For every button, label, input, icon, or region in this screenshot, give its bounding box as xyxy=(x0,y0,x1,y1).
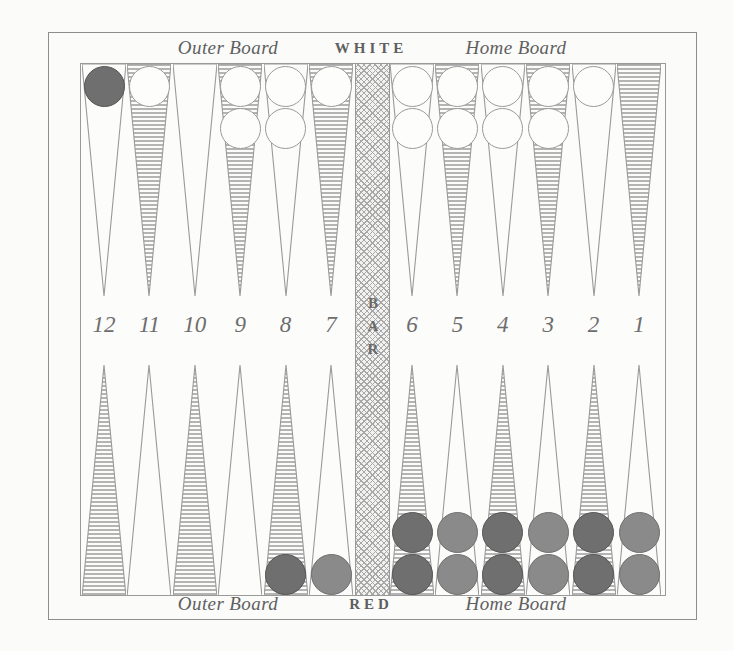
checker-red-bottom-4[interactable] xyxy=(482,512,523,553)
checker-red-bottom-8[interactable] xyxy=(265,554,306,595)
checker-white-top-8[interactable] xyxy=(265,66,306,107)
point-number-10: 10 xyxy=(173,312,217,338)
point-number-2: 2 xyxy=(572,312,616,338)
checker-white-top-5[interactable] xyxy=(437,66,478,107)
checker-white-top-9[interactable] xyxy=(220,108,261,149)
point-top-10[interactable] xyxy=(173,64,217,296)
point-top-1[interactable] xyxy=(617,64,661,296)
checker-white-top-6[interactable] xyxy=(392,108,433,149)
checker-white-top-3[interactable] xyxy=(528,108,569,149)
bottom-outer-board-label: Outer Board xyxy=(153,593,303,615)
checker-white-top-8[interactable] xyxy=(265,108,306,149)
point-bottom-12[interactable] xyxy=(82,365,126,596)
checker-white-top-4[interactable] xyxy=(482,66,523,107)
checker-red-bottom-2[interactable] xyxy=(573,554,614,595)
point-bottom-10[interactable] xyxy=(173,365,217,596)
point-number-12: 12 xyxy=(82,312,126,338)
point-bottom-11[interactable] xyxy=(127,365,171,596)
point-number-4: 4 xyxy=(481,312,525,338)
checker-white-top-5[interactable] xyxy=(437,108,478,149)
top-home-board-label: Home Board xyxy=(441,37,591,59)
checker-red-bottom-1[interactable] xyxy=(619,512,660,553)
point-bottom-9[interactable] xyxy=(218,365,262,596)
bar-region[interactable]: BAR xyxy=(355,64,390,595)
checker-red-bottom-1[interactable] xyxy=(619,554,660,595)
bottom-player-label: RED xyxy=(311,596,431,613)
bottom-home-board-label: Home Board xyxy=(441,593,591,615)
checker-red-bottom-3[interactable] xyxy=(528,554,569,595)
checker-red-bottom-4[interactable] xyxy=(482,554,523,595)
point-number-6: 6 xyxy=(390,312,434,338)
backgammon-board-frame: Outer Board WHITE Home Board Outer Board… xyxy=(48,32,697,620)
checker-red-bottom-3[interactable] xyxy=(528,512,569,553)
checker-red-top-12[interactable] xyxy=(84,66,125,107)
point-number-5: 5 xyxy=(435,312,479,338)
point-number-11: 11 xyxy=(127,312,171,338)
checker-red-bottom-5[interactable] xyxy=(437,512,478,553)
checker-red-bottom-6[interactable] xyxy=(392,554,433,595)
checker-white-top-11[interactable] xyxy=(129,66,170,107)
point-number-1: 1 xyxy=(617,312,661,338)
point-number-9: 9 xyxy=(218,312,262,338)
checker-white-top-7[interactable] xyxy=(311,66,352,107)
top-caption-row: Outer Board WHITE Home Board xyxy=(49,33,696,63)
checker-white-top-6[interactable] xyxy=(392,66,433,107)
checker-red-bottom-5[interactable] xyxy=(437,554,478,595)
checker-white-top-2[interactable] xyxy=(573,66,614,107)
top-outer-board-label: Outer Board xyxy=(153,37,303,59)
checker-red-bottom-7[interactable] xyxy=(311,554,352,595)
point-number-3: 3 xyxy=(526,312,570,338)
point-number-7: 7 xyxy=(309,312,353,338)
playing-surface: 121110987654321 BAR xyxy=(80,63,666,596)
point-number-8: 8 xyxy=(264,312,308,338)
top-player-label: WHITE xyxy=(311,40,431,57)
checker-white-top-4[interactable] xyxy=(482,108,523,149)
checker-red-bottom-6[interactable] xyxy=(392,512,433,553)
checker-white-top-3[interactable] xyxy=(528,66,569,107)
bar-label: BAR xyxy=(364,295,381,364)
checker-red-bottom-2[interactable] xyxy=(573,512,614,553)
checker-white-top-9[interactable] xyxy=(220,66,261,107)
